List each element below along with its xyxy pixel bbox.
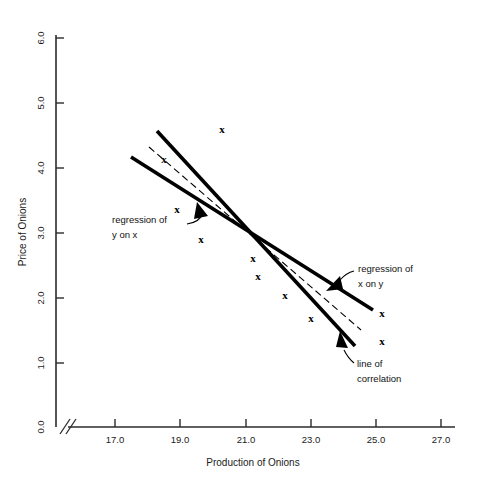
y-tick-label-3: 3.0 xyxy=(35,226,46,239)
annotation-text-line1: line of xyxy=(357,358,383,369)
data-point-marker: x xyxy=(308,312,314,324)
annotation-regression-x-on-y: regression of x on y xyxy=(326,263,413,291)
annotation-text-line1: regression of xyxy=(112,214,167,225)
x-tick-label-27: 27.0 xyxy=(432,434,451,445)
y-ticks-group xyxy=(56,38,64,363)
y-tick-label-1: 1.0 xyxy=(35,356,46,369)
annotation-text-line2: correlation xyxy=(357,373,401,384)
x-tick-label-25: 25.0 xyxy=(367,434,386,445)
scatter-plot-figure: 6.0 5.0 4.0 3.0 2.0 1.0 0.0 17.0 19.0 21… xyxy=(0,0,477,486)
y-tick-label-0: 0.0 xyxy=(35,420,46,433)
data-point-marker: x xyxy=(379,335,385,347)
annotation-text-line1: regression of xyxy=(358,263,413,274)
data-point-marker: x xyxy=(282,289,288,301)
data-point-marker: x xyxy=(174,203,180,215)
regression-lines-group xyxy=(131,131,373,346)
annotation-text-line2: y on x xyxy=(112,229,138,240)
data-point-marker: x xyxy=(161,153,167,165)
y-tick-labels-group: 6.0 5.0 4.0 3.0 2.0 1.0 0.0 xyxy=(35,31,46,433)
annotation-leader-line xyxy=(340,271,354,280)
annotation-text-line2: x on y xyxy=(358,278,384,289)
data-point-marker: x xyxy=(250,252,256,264)
annotation-regression-y-on-x: regression of y on x xyxy=(112,202,208,240)
y-tick-label-4: 4.0 xyxy=(35,161,46,174)
x-axis-title: Production of Onions xyxy=(206,457,299,468)
chart-canvas: 6.0 5.0 4.0 3.0 2.0 1.0 0.0 17.0 19.0 21… xyxy=(0,0,477,486)
x-tick-label-23: 23.0 xyxy=(302,434,321,445)
data-point-marker: x xyxy=(379,307,385,319)
x-tick-label-21: 21.0 xyxy=(237,434,256,445)
y-tick-label-5: 5.0 xyxy=(35,96,46,109)
y-tick-label-6: 6.0 xyxy=(35,31,46,44)
y-tick-label-2: 2.0 xyxy=(35,291,46,304)
annotation-line-of-correlation: line of correlation xyxy=(336,331,401,384)
x-tick-labels-group: 17.0 19.0 21.0 23.0 25.0 27.0 xyxy=(106,434,451,445)
data-points-group: x x x x x x x x x x xyxy=(161,123,385,347)
x-tick-label-17: 17.0 xyxy=(106,434,125,445)
data-point-marker: x xyxy=(198,233,204,245)
regression-y-on-x-line xyxy=(157,131,355,346)
x-tick-label-19: 19.0 xyxy=(171,434,190,445)
annotation-leader-line xyxy=(344,350,354,363)
x-ticks-group xyxy=(115,419,441,427)
data-point-marker: x xyxy=(255,270,261,282)
data-point-marker: x xyxy=(219,123,225,135)
y-axis-title: Price of Onions xyxy=(17,198,28,266)
